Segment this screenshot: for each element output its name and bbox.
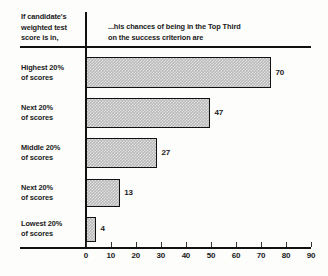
axis-tick: [111, 242, 112, 247]
axis-tick-label: 30: [150, 251, 172, 260]
axis-tick-label: 80: [275, 251, 297, 260]
bar: [86, 179, 120, 207]
bar-category-label-line-2: of scores: [21, 229, 83, 239]
axis-tick-label: 70: [250, 251, 272, 260]
bar-category-label-line-1: Middle 20%: [21, 143, 83, 153]
bar-category-label-line-1: Next 20%: [21, 103, 83, 113]
bar-value-label: 4: [100, 224, 104, 233]
axis-tick-label: 60: [225, 251, 247, 260]
axis-tick: [86, 242, 87, 247]
bar-category-label-line-2: of scores: [21, 153, 83, 163]
axis-tick-label: 20: [125, 251, 147, 260]
bar-category-label: Next 20%of scores: [21, 183, 83, 203]
bar-category-label: Middle 20%of scores: [21, 143, 83, 163]
bar-chart-figure: If candidate's weighted test score is in…: [0, 0, 328, 276]
axis-tick-label: 0: [75, 251, 97, 260]
bar-category-label: Lowest 20%of scores: [21, 219, 83, 239]
axis-tick: [136, 242, 137, 247]
axis-tick-label: 90: [300, 251, 322, 260]
axis-tick: [286, 242, 287, 247]
bar-value-label: 70: [275, 68, 284, 77]
bar-category-label-line-1: Lowest 20%: [21, 219, 83, 229]
bar-category-label-line-1: Highest 20%: [21, 63, 83, 73]
axis-tick: [311, 242, 312, 247]
bar: [86, 217, 97, 242]
bar-value-label: 13: [124, 188, 133, 197]
bar-category-label: Next 20%of scores: [21, 103, 83, 123]
axis-tick: [211, 242, 212, 247]
bar-category-label: Highest 20%of scores: [21, 63, 83, 83]
bar-category-label-line-2: of scores: [21, 73, 83, 83]
axis-tick-label: 50: [200, 251, 222, 260]
bar-category-label-line-2: of scores: [21, 193, 83, 203]
axis-tick: [236, 242, 237, 247]
bar-value-label: 47: [214, 108, 223, 117]
axis-tick-label: 10: [100, 251, 122, 260]
axis-tick: [161, 242, 162, 247]
plot-area: Highest 20%of scores70Next 20%of scores4…: [0, 0, 328, 276]
bar: [86, 138, 158, 168]
axis-tick-label: 40: [175, 251, 197, 260]
axis-tick: [186, 242, 187, 247]
axis-tick: [261, 242, 262, 247]
bar-category-label-line-2: of scores: [21, 113, 83, 123]
bar-category-label-line-1: Next 20%: [21, 183, 83, 193]
bar: [86, 98, 211, 128]
bar: [86, 57, 272, 88]
bar-value-label: 27: [161, 148, 170, 157]
